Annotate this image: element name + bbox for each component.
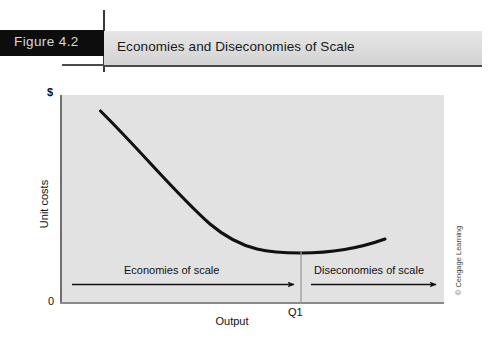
- header-band-shadow: [104, 65, 482, 67]
- y-axis-top-tick-label: $: [47, 86, 53, 98]
- diseconomies-of-scale-label: Diseconomies of scale: [314, 264, 424, 276]
- y-axis: [60, 95, 62, 304]
- x-axis-title: Output: [196, 315, 268, 327]
- figure-title: Economies and Diseconomies of Scale: [117, 39, 355, 54]
- y-axis-title: Unit costs: [38, 158, 50, 250]
- x-axis: [60, 302, 444, 304]
- figure-container: Figure 4.2 Economies and Diseconomies of…: [0, 0, 504, 357]
- y-axis-zero-tick-label: 0: [48, 295, 54, 307]
- figure-header: Figure 4.2 Economies and Diseconomies of…: [0, 0, 504, 80]
- header-underline: [62, 64, 104, 66]
- copyright-notice: © Cengage Learning: [454, 223, 463, 299]
- q1-tick-label: Q1: [288, 306, 303, 318]
- economies-of-scale-label: Economies of scale: [124, 264, 219, 276]
- figure-label: Figure 4.2: [14, 34, 79, 49]
